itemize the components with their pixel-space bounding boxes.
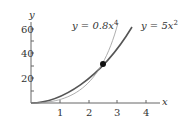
- x-tick-label-1: 1: [57, 108, 63, 118]
- y-tick-label-60: 60: [21, 25, 34, 35]
- y-axis-label: y: [29, 10, 35, 20]
- x-axis-label: x: [162, 97, 168, 107]
- intersection-point: [100, 61, 106, 67]
- x-tick-label-3: 3: [114, 108, 120, 118]
- curve-label-5x2: y = 5x2: [141, 20, 178, 31]
- curve-5x2-line: [31, 27, 132, 103]
- x-tick-label-2: 2: [86, 108, 92, 118]
- curve-label-08x4: y = 0.8x4: [72, 20, 118, 31]
- y-tick-label-40: 40: [21, 49, 34, 59]
- y-tick-label-20: 20: [21, 74, 34, 84]
- x-tick-label-4: 4: [143, 108, 149, 118]
